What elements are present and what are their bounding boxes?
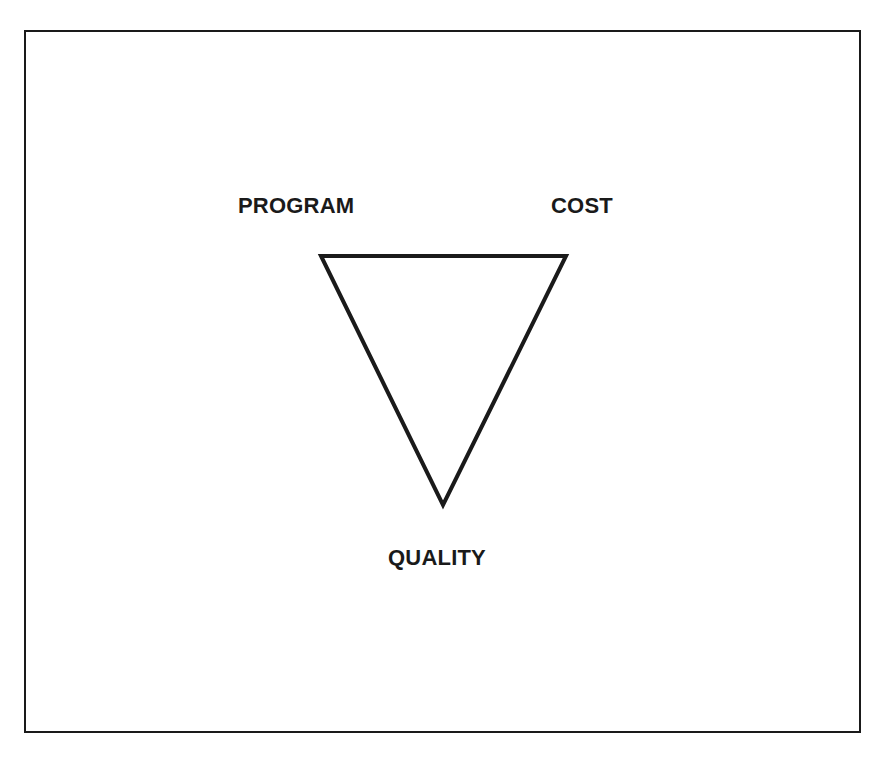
label-cost: COST (551, 193, 613, 219)
triangle-diagram (0, 0, 885, 759)
triangle-shape (321, 256, 566, 505)
label-program: PROGRAM (238, 193, 354, 219)
label-quality: QUALITY (388, 545, 486, 571)
